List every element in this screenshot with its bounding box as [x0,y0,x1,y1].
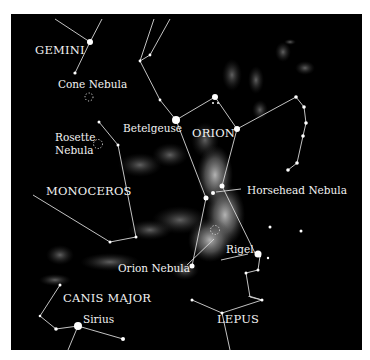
label-betelgeuse: Betelgeuse [123,122,182,134]
label-gemini: GEMINI [35,43,85,57]
label-lepus: LEPUS [217,312,259,326]
label-orion: ORION [192,126,235,140]
sirius-star [74,322,82,330]
label-cone-nebula: Cone Nebula [58,78,127,90]
star-map: GEMINI Cone Nebula Rosette Nebula Betelg… [0,0,370,360]
label-orion-nebula: Orion Nebula [118,262,190,274]
label-rigel: Rigel [226,243,254,255]
label-horsehead-nebula: Horsehead Nebula [247,184,347,196]
label-canis-major: CANIS MAJOR [63,291,151,305]
nebula-clouds [39,39,315,286]
label-sirius: Sirius [83,313,114,325]
label-rosette-line2: Nebula [55,144,94,156]
label-rosette-line1: Rosette [55,131,95,143]
cone-nebula-marker [85,93,93,101]
label-monoceros: MONOCEROS [46,184,132,198]
